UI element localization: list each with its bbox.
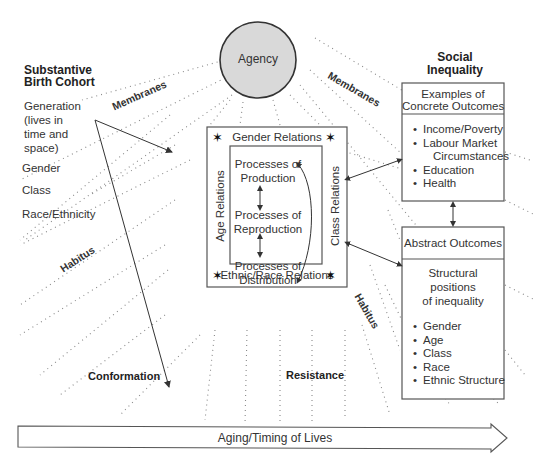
list-item: Circumstances bbox=[413, 150, 509, 164]
left-heading-line2: Birth Cohort bbox=[24, 75, 95, 89]
process-production: Processes of Production bbox=[232, 157, 304, 185]
concrete-title-line2: Concrete Outcomes bbox=[402, 99, 504, 113]
conformation-label: Conformation bbox=[88, 369, 160, 383]
agency-label: Agency bbox=[230, 52, 286, 66]
generation-label: Generation (lives in time and space) bbox=[24, 99, 81, 155]
abstract-outcomes-list: Gender Age Class Race Ethnic Structure bbox=[413, 320, 505, 388]
list-item: Gender bbox=[413, 320, 505, 334]
star-icon: ✶ bbox=[212, 269, 223, 282]
left-item-gender: Gender bbox=[22, 161, 60, 175]
timeline-label: Aging/Timing of Lives bbox=[150, 431, 400, 445]
resistance-label: Resistance bbox=[286, 368, 344, 382]
list-item: Age bbox=[413, 334, 505, 348]
list-item: Labour Market bbox=[413, 137, 509, 151]
list-item: Health bbox=[413, 177, 509, 191]
right-heading-line2: Inequality bbox=[415, 63, 495, 77]
abstract-title: Abstract Outcomes bbox=[402, 236, 504, 250]
list-item: Education bbox=[413, 164, 509, 178]
abstract-subtitle: Structural positions of inequality bbox=[402, 266, 504, 308]
left-item-class: Class bbox=[22, 183, 51, 197]
list-item: Race bbox=[413, 361, 505, 375]
star-icon: ✶ bbox=[325, 269, 336, 282]
process-reproduction: Processes of Reproduction bbox=[232, 208, 304, 236]
list-item: Income/Poverty bbox=[413, 123, 509, 137]
star-icon: ✶ bbox=[325, 131, 336, 144]
process-distribution: Processes of Distribution bbox=[232, 259, 304, 287]
list-item: Class bbox=[413, 347, 505, 361]
list-item: Ethnic Structure bbox=[413, 374, 505, 388]
star-icon: ✶ bbox=[212, 131, 223, 144]
right-heading-line1: Social bbox=[415, 50, 495, 64]
left-item-race-ethnicity: Race/Ethnicity bbox=[22, 207, 96, 221]
class-relations-label: Class Relations bbox=[329, 166, 341, 246]
concrete-outcomes-list: Income/Poverty Labour Market Circumstanc… bbox=[413, 123, 509, 191]
age-relations-label: Age Relations bbox=[214, 166, 226, 246]
